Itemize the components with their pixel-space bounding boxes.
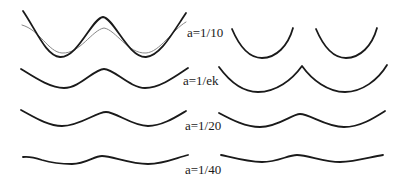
wave-curve-left — [21, 110, 186, 126]
label-a-1-10: a=1/10 — [187, 26, 223, 39]
wave-curve-right — [219, 111, 385, 127]
wave-curve-left — [23, 11, 186, 57]
wave-curve-left — [21, 68, 188, 88]
wave-arc-right-1 — [232, 28, 293, 58]
wave-curve-left — [23, 155, 188, 164]
wave-arc-right-2 — [316, 28, 377, 58]
label-a-1-ek: a=1/ek — [183, 74, 218, 87]
label-a-1-20: a=1/20 — [185, 119, 221, 132]
wave-curve-right — [221, 155, 383, 162]
wave-curve-right — [219, 65, 387, 92]
label-a-1-40: a=1/40 — [185, 163, 221, 176]
